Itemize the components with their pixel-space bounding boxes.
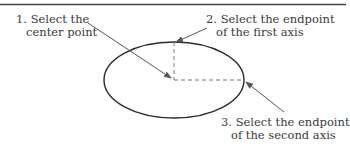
step-1-line2: center point [16, 26, 97, 39]
arrow-step-3 [246, 82, 284, 112]
arrow-step-2 [176, 28, 207, 42]
step-3-label: 3. Select the endpoint of the second axi… [221, 116, 350, 142]
step-2-label: 2. Select the endpoint of the first axis [206, 13, 335, 39]
step-2-line2: of the first axis [206, 26, 335, 39]
step-1-label: 1. Select the center point [16, 13, 97, 39]
step-3-line2: of the second axis [221, 129, 350, 142]
arrow-step-1 [88, 23, 171, 78]
